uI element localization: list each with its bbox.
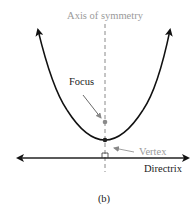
parabola-diagram: Axis of symmetry Focus Vertex Directrix … <box>0 0 195 216</box>
vertex-pointer <box>114 148 134 152</box>
vertex-label: Vertex <box>139 146 167 157</box>
vertex-point <box>103 138 108 143</box>
focus-point <box>103 120 108 125</box>
focus-pointer <box>83 95 101 118</box>
figure-caption: (b) <box>98 193 111 205</box>
axis-label: Axis of symmetry <box>67 10 144 21</box>
focus-label: Focus <box>69 76 94 87</box>
directrix-label: Directrix <box>144 163 183 174</box>
